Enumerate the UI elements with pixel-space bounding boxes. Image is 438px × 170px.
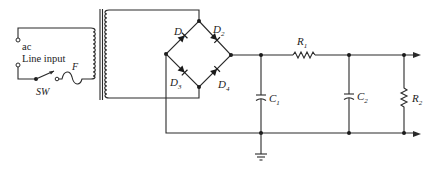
capacitor-c1-icon	[256, 55, 266, 133]
r2-node-bottom	[402, 131, 406, 135]
transformer	[91, 9, 109, 100]
switch-contact	[55, 77, 59, 81]
input-wire-bottom	[18, 67, 35, 79]
ground-icon	[255, 133, 267, 160]
resistor-r1-icon	[293, 52, 315, 58]
r2-label: R2	[411, 92, 423, 107]
r2-node-top	[402, 53, 406, 57]
r1-label: R1	[296, 35, 307, 50]
output-arrow-negative-icon	[413, 131, 421, 137]
capacitor-c2-icon	[344, 55, 354, 133]
ac-terminal-top	[16, 38, 20, 42]
c1-label: C1	[269, 92, 280, 107]
negative-rail-left-drop	[166, 54, 416, 133]
c2-node-bottom	[347, 131, 351, 135]
c2-node-top	[347, 53, 351, 57]
switch-label: SW	[36, 86, 51, 97]
fuse	[59, 72, 91, 84]
transformer-secondary-coil	[105, 10, 109, 98]
ac-label: ac	[22, 41, 32, 52]
input-wire-top	[18, 28, 91, 38]
d3-label: D3	[169, 76, 182, 91]
resistor-r2-icon	[401, 55, 407, 133]
line-input-label: Line input	[22, 53, 66, 64]
bridge-node-top	[197, 19, 201, 23]
fuse-label: F	[71, 61, 79, 72]
rectifier-circuit-diagram: ac Line input SW F	[0, 0, 438, 170]
output-arrow-positive-icon	[413, 52, 421, 58]
bridge-node-bottom	[197, 85, 201, 89]
secondary-wire-top	[109, 10, 199, 21]
secondary-wire-bottom	[109, 87, 199, 98]
transformer-primary-coil	[91, 28, 95, 79]
c2-label: C2	[357, 90, 368, 105]
c1-node-top	[259, 53, 263, 57]
d4-label: D4	[217, 78, 230, 93]
ac-terminal-bottom	[16, 63, 20, 67]
